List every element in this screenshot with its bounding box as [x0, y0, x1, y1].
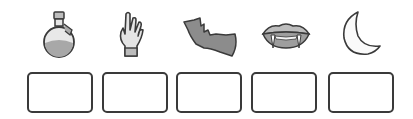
answer-box[interactable]	[328, 72, 394, 113]
crescent-moon-icon	[334, 8, 384, 60]
zombie-hand-icon	[108, 8, 158, 60]
answer-box[interactable]	[102, 72, 168, 113]
answer-box[interactable]	[251, 72, 317, 113]
bat-icon	[182, 8, 238, 60]
potion-icon	[34, 8, 84, 60]
answer-box[interactable]	[27, 72, 93, 113]
vampire-fangs-icon	[259, 8, 313, 60]
answer-box[interactable]	[176, 72, 242, 113]
